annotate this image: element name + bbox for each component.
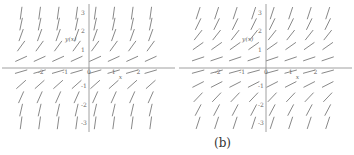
slope-segment [267,82,278,87]
slope-segment [149,18,151,30]
slope-segment [322,70,334,73]
slope-segment [233,7,237,18]
slope-segment [19,29,23,40]
slope-segment [287,30,294,39]
y-tick-label: -2 [81,101,87,108]
slope-segment [304,82,315,87]
slope-segment [57,18,59,30]
slope-segment [322,57,333,61]
y-tick-label: -3 [258,119,264,126]
slope-segment [71,56,82,61]
slope-segment [94,104,97,116]
y-tick-label: -1 [258,82,264,89]
x-axis-label: x [119,73,123,80]
slope-segment [112,104,115,116]
slope-segment [325,105,331,116]
x-tick-label: -1 [239,68,245,75]
slope-segment [326,117,330,128]
y-tick-label: -1 [81,82,87,89]
slope-segment [195,19,200,30]
slope-segment [131,104,134,116]
slope-segment [56,29,60,40]
slope-segment [111,92,116,103]
slope-segment [55,41,62,51]
slope-segment [129,41,136,51]
x-tick-label: -2 [38,68,44,75]
slope-segment [268,93,276,102]
x-tick-label: 0 [87,68,91,75]
slope-segment [196,7,200,18]
slope-segment [213,30,220,39]
slope-segment [304,43,314,50]
slope-segment [192,70,204,73]
slope-segment [212,93,220,102]
slope-segment [56,92,61,103]
slope-segment [57,7,59,19]
slope-segment [92,41,99,51]
y-tick-label: 2 [258,27,262,34]
slope-segment [193,82,204,87]
slope-segment [71,70,83,73]
slope-segment [131,18,133,30]
slope-segment [93,92,98,103]
slope-segment [285,82,296,87]
slope-segment [270,19,275,30]
slope-segment [266,57,277,61]
slope-segment [18,41,25,51]
x-tick-label: 1 [289,68,293,75]
slope-segment [38,104,41,116]
slope-segment [229,57,240,61]
slope-segment [267,43,277,50]
slope-segment [74,92,79,103]
slope-segment [326,7,330,18]
slope-segment [215,7,219,18]
slope-segment [39,7,41,19]
slope-segment [34,56,45,61]
slope-segment [112,18,114,30]
caption-b: (b) [214,136,231,150]
x-tick-label: -1 [62,68,68,75]
y-tick-label: -3 [81,119,87,126]
slope-segment [252,117,256,128]
slope-segment [211,82,222,87]
slope-segment [192,57,203,61]
slope-segment [130,29,134,40]
slope-segment [231,30,238,39]
y-tick-label: 1 [81,46,85,53]
slope-segment [196,117,200,128]
slope-segment [110,41,117,51]
slope-segment [323,43,333,50]
slope-segment [145,70,157,73]
y-axis-label: y(x) [64,35,77,43]
slope-segment [286,43,296,50]
slope-segment [322,82,333,87]
slope-segment [113,7,115,19]
slope-segment [304,57,315,61]
slope-segment [94,7,96,19]
slope-segment [288,105,294,116]
slope-segment [289,7,293,18]
slope-segment [145,56,156,61]
slope-segment [17,80,26,88]
slope-segment [285,57,296,61]
y-axis-label: y(x) [241,35,254,43]
x-tick-label: 0 [264,68,268,75]
slope-segment [19,92,24,103]
slope-segment [289,117,293,128]
slope-segment [20,104,23,116]
slope-segment [57,104,60,116]
x-axis-label: x [296,73,300,80]
slope-segment [20,7,22,19]
slope-segment [53,56,64,61]
slope-segment [270,117,274,128]
slope-segment [57,117,59,129]
slope-segment [109,80,118,88]
slope-segment [248,70,260,73]
slope-field-a: -2-1012321-1-2-3xy(x) [0,0,177,135]
slope-segment [230,82,241,87]
slope-segment [214,19,219,30]
y-tick-label: -2 [258,101,264,108]
slope-segment [307,117,311,128]
slope-segment [37,92,42,103]
slope-segment [20,18,22,30]
